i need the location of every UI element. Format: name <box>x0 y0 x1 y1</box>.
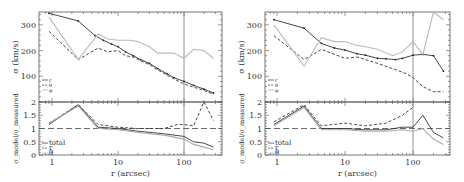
y-tick-label: 0.5 <box>23 138 36 147</box>
chart-panel-right: 100200300σ (km/s)rθφ00.511.52σ_model/σ_m… <box>237 12 450 178</box>
x-tick-label: 10 <box>113 158 123 167</box>
x-tick-label: 10 <box>340 158 350 167</box>
series-theta <box>49 102 214 129</box>
y-tick-label: 300 <box>21 21 36 30</box>
series-phi <box>49 17 214 60</box>
y-tick-label: 1.5 <box>23 111 36 120</box>
series-r <box>274 107 444 144</box>
y-tick-label: 0 <box>257 151 262 160</box>
y-tick-label: 0 <box>31 151 36 160</box>
y-tick-label: 1 <box>257 125 262 134</box>
legend-label: φ <box>49 87 53 94</box>
y-axis-label: σ (km/s) <box>11 40 20 73</box>
y-tick-label: 200 <box>21 47 36 56</box>
series-theta <box>274 36 444 92</box>
y-tick-label: 1 <box>31 125 36 134</box>
y-tick-label: 2 <box>31 98 36 107</box>
y-axis-label: σ (km/s) <box>237 40 246 73</box>
y-axis-label: σ_model/σ_measured <box>12 93 20 163</box>
x-tick-label: 1 <box>274 158 279 167</box>
legend-label: φ <box>275 87 279 94</box>
y-axis-label: σ_model/σ_measured <box>238 93 246 163</box>
subplot-dispersion: 100200300σ (km/s)rθφ <box>11 12 222 102</box>
chart-panel-left: 100200300σ (km/s)rθφ00.511.52σ_model/σ_m… <box>11 12 222 178</box>
x-axis-label: r (arcsec) <box>111 169 150 178</box>
plot-frame <box>39 12 222 102</box>
subplot-dispersion: 100200300σ (km/s)rθφ <box>237 12 450 102</box>
y-tick-label: 100 <box>247 72 262 81</box>
x-tick-label: 1 <box>49 158 54 167</box>
figure: 100200300σ (km/s)rθφ00.511.52σ_model/σ_m… <box>0 0 464 182</box>
series-theta <box>274 105 413 126</box>
y-tick-label: 0.5 <box>249 138 262 147</box>
series-total <box>49 105 214 147</box>
x-tick-label: 100 <box>405 158 420 167</box>
subplot-ratio: 00.511.52σ_model/σ_measuredtotalrθ <box>12 93 222 163</box>
subplot-ratio: 00.511.52σ_model/σ_measuredtotalrθ <box>238 93 450 163</box>
y-tick-label: 300 <box>247 21 262 30</box>
y-tick-label: 200 <box>247 47 262 56</box>
y-tick-label: 100 <box>21 72 36 81</box>
legend-label: θ <box>275 149 279 157</box>
legend-label: θ <box>49 149 53 157</box>
y-tick-label: 2 <box>257 98 262 107</box>
x-axis-label: r (arcsec) <box>338 169 377 178</box>
x-tick-label: 100 <box>176 158 191 167</box>
y-tick-label: 1.5 <box>249 111 262 120</box>
